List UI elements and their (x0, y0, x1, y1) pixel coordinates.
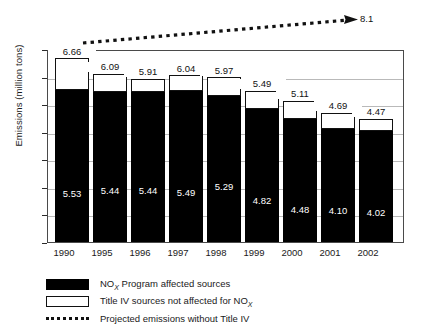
bar-segment-unaffected (55, 58, 89, 89)
bar-value-affected: 5.29 (208, 182, 240, 192)
bar-value-affected: 5.53 (56, 189, 88, 199)
bar-segment-unaffected (359, 119, 393, 131)
bar-segment-unaffected (169, 75, 203, 90)
bar-value-affected: 4.82 (246, 196, 278, 206)
legend-label-projected-emissions: Projected emissions without Title IV (100, 313, 249, 324)
bar-segment-affected: 5.44 (93, 92, 127, 242)
bar-total-label: 5.11 (276, 89, 324, 99)
emissions-chart-figure: 8.1 Emissions (million tons) 5.53 6.66 (0, 0, 430, 335)
bar-value-affected: 4.02 (360, 208, 392, 218)
bar-total-label: 4.47 (352, 107, 400, 117)
plot-frame: 5.53 6.66 5.44 6.09 5.44 5.91 (47, 50, 404, 243)
bar-segment-affected: 4.10 (321, 129, 355, 242)
bar-segment-unaffected (131, 79, 165, 92)
bar-value-affected: 5.44 (94, 186, 126, 196)
bar-segment-affected: 5.49 (169, 91, 203, 242)
bar-value-affected: 4.48 (284, 205, 316, 215)
legend-item-affected-sources: NOX Program affected sources (46, 276, 376, 293)
bar-segment-affected: 5.53 (55, 90, 89, 243)
legend-item-title-iv-sources: Title IV sources not affected for NOX (46, 293, 376, 310)
bar-segment-affected: 4.82 (245, 109, 279, 242)
y-tick-1 (42, 215, 47, 216)
y-tick-7 (42, 50, 47, 51)
bar-segment-affected: 5.29 (207, 96, 241, 242)
projection-value-label: 8.1 (360, 13, 373, 24)
bar-value-affected: 5.44 (132, 186, 164, 196)
chart-legend: NOX Program affected sources Title IV so… (46, 276, 376, 327)
bar-total-label: 6.66 (48, 47, 96, 57)
bar-segment-unaffected (93, 74, 127, 92)
y-tick-2 (42, 188, 47, 189)
bar-total-label: 5.49 (238, 79, 286, 89)
y-tick-5 (42, 105, 47, 106)
bar-segment-affected: 4.48 (283, 119, 317, 243)
y-tick-3 (42, 160, 47, 161)
bar-total-label: 5.97 (200, 66, 248, 76)
y-tick-4 (42, 133, 47, 134)
y-axis-title: Emissions (million tons) (13, 6, 24, 186)
legend-label-title-iv-sources: Title IV sources not affected for NOX (100, 295, 253, 308)
legend-swatch-filled-icon (46, 279, 89, 290)
legend-item-projected-emissions: Projected emissions without Title IV (46, 310, 376, 327)
bar-value-affected: 4.10 (322, 206, 354, 216)
bar-segment-affected: 5.44 (131, 92, 165, 242)
legend-swatch-hollow-icon (46, 296, 89, 307)
bar-segment-unaffected (321, 113, 355, 129)
bar-segment-unaffected (245, 91, 279, 110)
bar-segment-unaffected (283, 101, 317, 118)
legend-label-affected-sources: NOX Program affected sources (100, 278, 230, 291)
bar-segment-affected: 4.02 (359, 131, 393, 242)
x-tick-label-2002: 2002 (344, 247, 392, 258)
legend-swatch-dotted-line-icon (46, 313, 89, 324)
bar-value-affected: 5.49 (170, 188, 202, 198)
y-tick-6 (42, 78, 47, 79)
y-tick-0 (42, 243, 47, 244)
bar-segment-unaffected (207, 77, 241, 96)
chart-plot-area: 8.1 Emissions (million tons) 5.53 6.66 (0, 0, 430, 268)
